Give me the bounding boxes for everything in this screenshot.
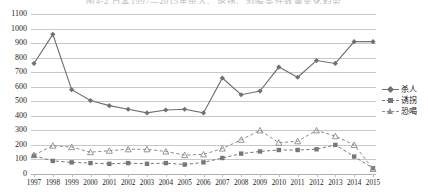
y-axis-tick-label: 0: [0, 170, 27, 178]
legend-item-2[interactable]: 诱拐: [382, 95, 428, 105]
data-point: [126, 161, 130, 165]
y-axis-tick-label: 800: [0, 54, 27, 62]
legend-swatch: [382, 96, 399, 105]
x-axis-tickmark: [53, 174, 54, 177]
legend-swatch: [382, 85, 399, 94]
series-3: [31, 127, 376, 171]
legend-marker-diamond-icon: [387, 85, 394, 92]
data-point: [69, 160, 73, 164]
y-axis-tick-label: 900: [0, 39, 27, 47]
x-axis-tickmark: [204, 174, 205, 177]
series-layer: [31, 14, 376, 174]
x-axis-tickmark: [241, 174, 242, 177]
legend-swatch: [382, 107, 399, 116]
legend-marker-square-icon: [388, 98, 393, 103]
y-axis-tick-label: 200: [0, 141, 27, 149]
data-point: [88, 161, 92, 165]
x-axis-tickmark: [91, 174, 92, 177]
legend-label: 诱拐: [399, 96, 417, 105]
y-axis-tick-label: 400: [0, 112, 27, 120]
x-axis-labels: 1997199819992000200120022003200420052006…: [31, 179, 376, 191]
data-point: [144, 110, 149, 115]
x-axis-tickmark: [166, 174, 167, 177]
data-point: [164, 161, 168, 165]
data-point: [145, 162, 149, 166]
legend-item-1[interactable]: 杀人: [382, 84, 428, 94]
data-point: [69, 87, 74, 92]
x-axis-tickmark: [128, 174, 129, 177]
y-axis-tick-label: 1100: [0, 10, 27, 18]
data-point: [107, 103, 112, 108]
y-axis-tick-label: 600: [0, 83, 27, 91]
y-axis-tick-label: 1000: [0, 25, 27, 33]
plot-area: [31, 14, 376, 174]
x-axis-tickmark: [147, 174, 148, 177]
x-axis-tickmark: [222, 174, 223, 177]
x-axis-tickmark: [185, 174, 186, 177]
x-axis-tickmark: [354, 174, 355, 177]
data-point: [370, 39, 375, 44]
data-point: [239, 151, 243, 155]
data-point: [295, 148, 299, 152]
data-point: [126, 107, 131, 112]
x-axis-tickmark: [260, 174, 261, 177]
y-axis-tick-label: 300: [0, 126, 27, 134]
x-axis-tickmark: [72, 174, 73, 177]
chart-legend: 杀人诱拐恐喝: [382, 84, 428, 117]
legend-label: 杀人: [399, 85, 417, 94]
x-axis-tick-label: 2015: [360, 179, 386, 188]
x-axis-tickmark: [279, 174, 280, 177]
series-1: [31, 32, 375, 116]
y-axis-tick-label: 100: [0, 155, 27, 163]
legend-label: 恐喝: [399, 107, 417, 116]
data-point: [107, 162, 111, 166]
data-point: [314, 147, 318, 151]
x-axis-tickmark: [34, 174, 35, 177]
data-point: [201, 160, 205, 164]
data-point: [182, 162, 186, 166]
legend-marker-triangle-icon: [387, 108, 393, 114]
data-point: [352, 154, 356, 158]
x-axis-tickmark: [109, 174, 110, 177]
x-axis-tickmark: [373, 174, 374, 177]
data-point: [163, 107, 168, 112]
legend-item-3[interactable]: 恐喝: [382, 106, 428, 116]
data-point: [182, 107, 187, 112]
data-point: [201, 110, 206, 115]
data-point: [88, 98, 93, 103]
x-axis-tickmark: [317, 174, 318, 177]
data-point: [333, 143, 337, 147]
x-axis-tickmark: [298, 174, 299, 177]
x-axis-tickmark: [335, 174, 336, 177]
chart-container: 图4-2 日本1997—2015年杀人、诱拐、恐喝案件数量变化趋势 010020…: [0, 0, 428, 192]
data-point: [257, 127, 263, 133]
y-axis-tick-label: 700: [0, 68, 27, 76]
data-point: [258, 149, 262, 153]
data-point: [277, 148, 281, 152]
data-point: [51, 159, 55, 163]
y-axis-tick-label: 500: [0, 97, 27, 105]
data-point: [220, 156, 224, 160]
series-line: [34, 34, 373, 113]
